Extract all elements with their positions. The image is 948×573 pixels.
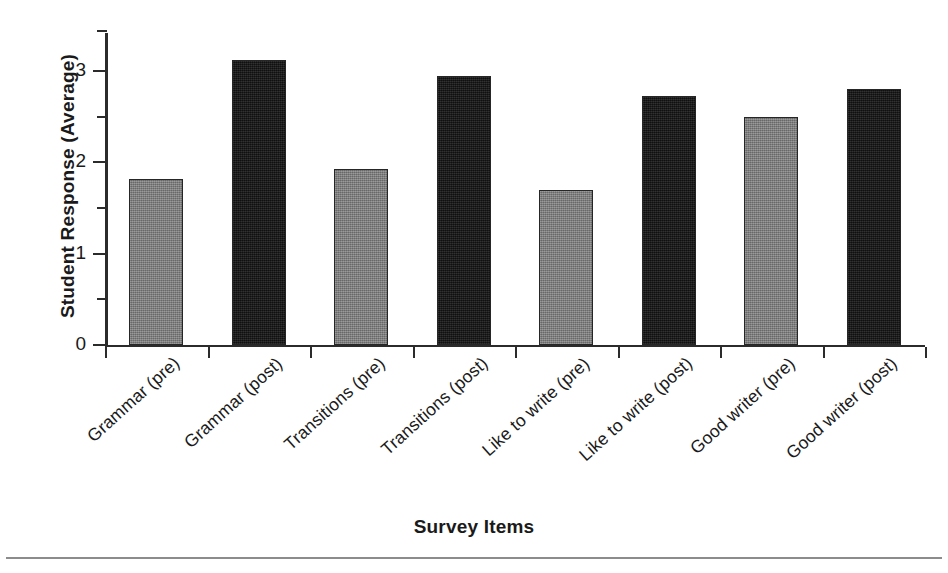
y-tick-major: 0 — [93, 344, 107, 346]
x-tick — [925, 347, 927, 358]
x-axis-label: Like to write (post) — [575, 353, 697, 466]
bar-chart-figure: Student Response (Average) 0123 Grammar … — [0, 0, 948, 573]
bar-post — [642, 96, 696, 345]
bar-post — [232, 60, 286, 345]
y-tick-label: 3 — [75, 60, 86, 79]
y-tick-minor — [97, 207, 107, 209]
x-axis-label: Transitions (pre) — [280, 353, 390, 455]
y-tick-major: 3 — [93, 70, 107, 72]
x-axis-label: Like to write (pre) — [478, 353, 594, 460]
x-tick — [618, 347, 620, 358]
x-axis-title: Survey Items — [0, 516, 948, 538]
x-tick — [413, 347, 415, 358]
x-tick — [208, 347, 210, 358]
y-tick-minor — [97, 298, 107, 300]
x-tick — [310, 347, 312, 358]
y-tick-label: 1 — [75, 243, 86, 262]
x-tick — [720, 347, 722, 358]
x-axis-label: Good writer (pre) — [686, 353, 800, 458]
x-tick — [105, 347, 107, 358]
x-axis-label: Good writer (post) — [782, 353, 901, 464]
x-tick — [823, 347, 825, 358]
y-tick-major: 2 — [93, 161, 107, 163]
y-tick-label: 0 — [75, 334, 86, 353]
y-tick-minor — [97, 30, 107, 32]
bar-pre — [129, 179, 183, 345]
footer-rule — [6, 557, 942, 559]
x-axis-label: Grammar (pre) — [83, 353, 184, 447]
y-tick-minor — [97, 116, 107, 118]
y-tick-major: 1 — [93, 253, 107, 255]
bar-pre — [334, 169, 388, 345]
bar-post — [437, 76, 491, 345]
y-tick-label: 2 — [75, 152, 86, 171]
x-axis-label: Grammar (post) — [180, 353, 287, 452]
bar-pre — [539, 190, 593, 345]
x-axis-label: Transitions (post) — [377, 353, 492, 460]
x-tick — [515, 347, 517, 358]
bar-post — [847, 89, 901, 345]
plot-area: 0123 — [105, 33, 925, 347]
bar-pre — [744, 117, 798, 345]
